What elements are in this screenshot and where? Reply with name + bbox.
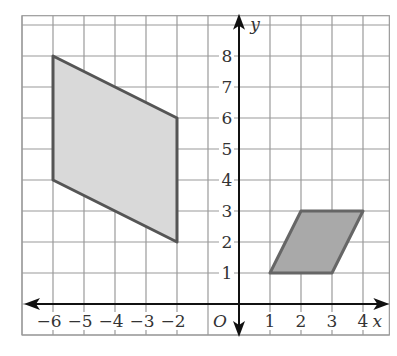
y-tick-label: 3 [222, 201, 233, 221]
x-axis-label: x [373, 311, 383, 331]
y-axis-label: y [249, 14, 260, 34]
y-tick-label: 1 [222, 263, 233, 283]
x-tick-label: −2 [160, 311, 185, 331]
x-tick-label: 1 [265, 311, 276, 331]
x-tick-label: −3 [129, 311, 154, 331]
y-tick-label: 5 [222, 139, 233, 159]
origin-label: O [213, 311, 227, 331]
x-tick-label: −5 [67, 311, 92, 331]
x-tick-label: 4 [358, 311, 369, 331]
x-tick-label: 3 [327, 311, 338, 331]
y-tick-label: 4 [222, 170, 233, 190]
y-tick-label: 8 [222, 46, 233, 66]
x-tick-label: −6 [36, 311, 61, 331]
x-tick-label: 2 [296, 311, 307, 331]
x-tick-label: −4 [98, 311, 123, 331]
y-tick-label: 2 [222, 232, 233, 252]
y-tick-label: 6 [222, 108, 233, 128]
right-parallelogram [270, 211, 363, 273]
coordinate-grid: y −6−5−4−3−2123412345678Ox [0, 0, 397, 356]
y-tick-label: 7 [222, 77, 233, 97]
